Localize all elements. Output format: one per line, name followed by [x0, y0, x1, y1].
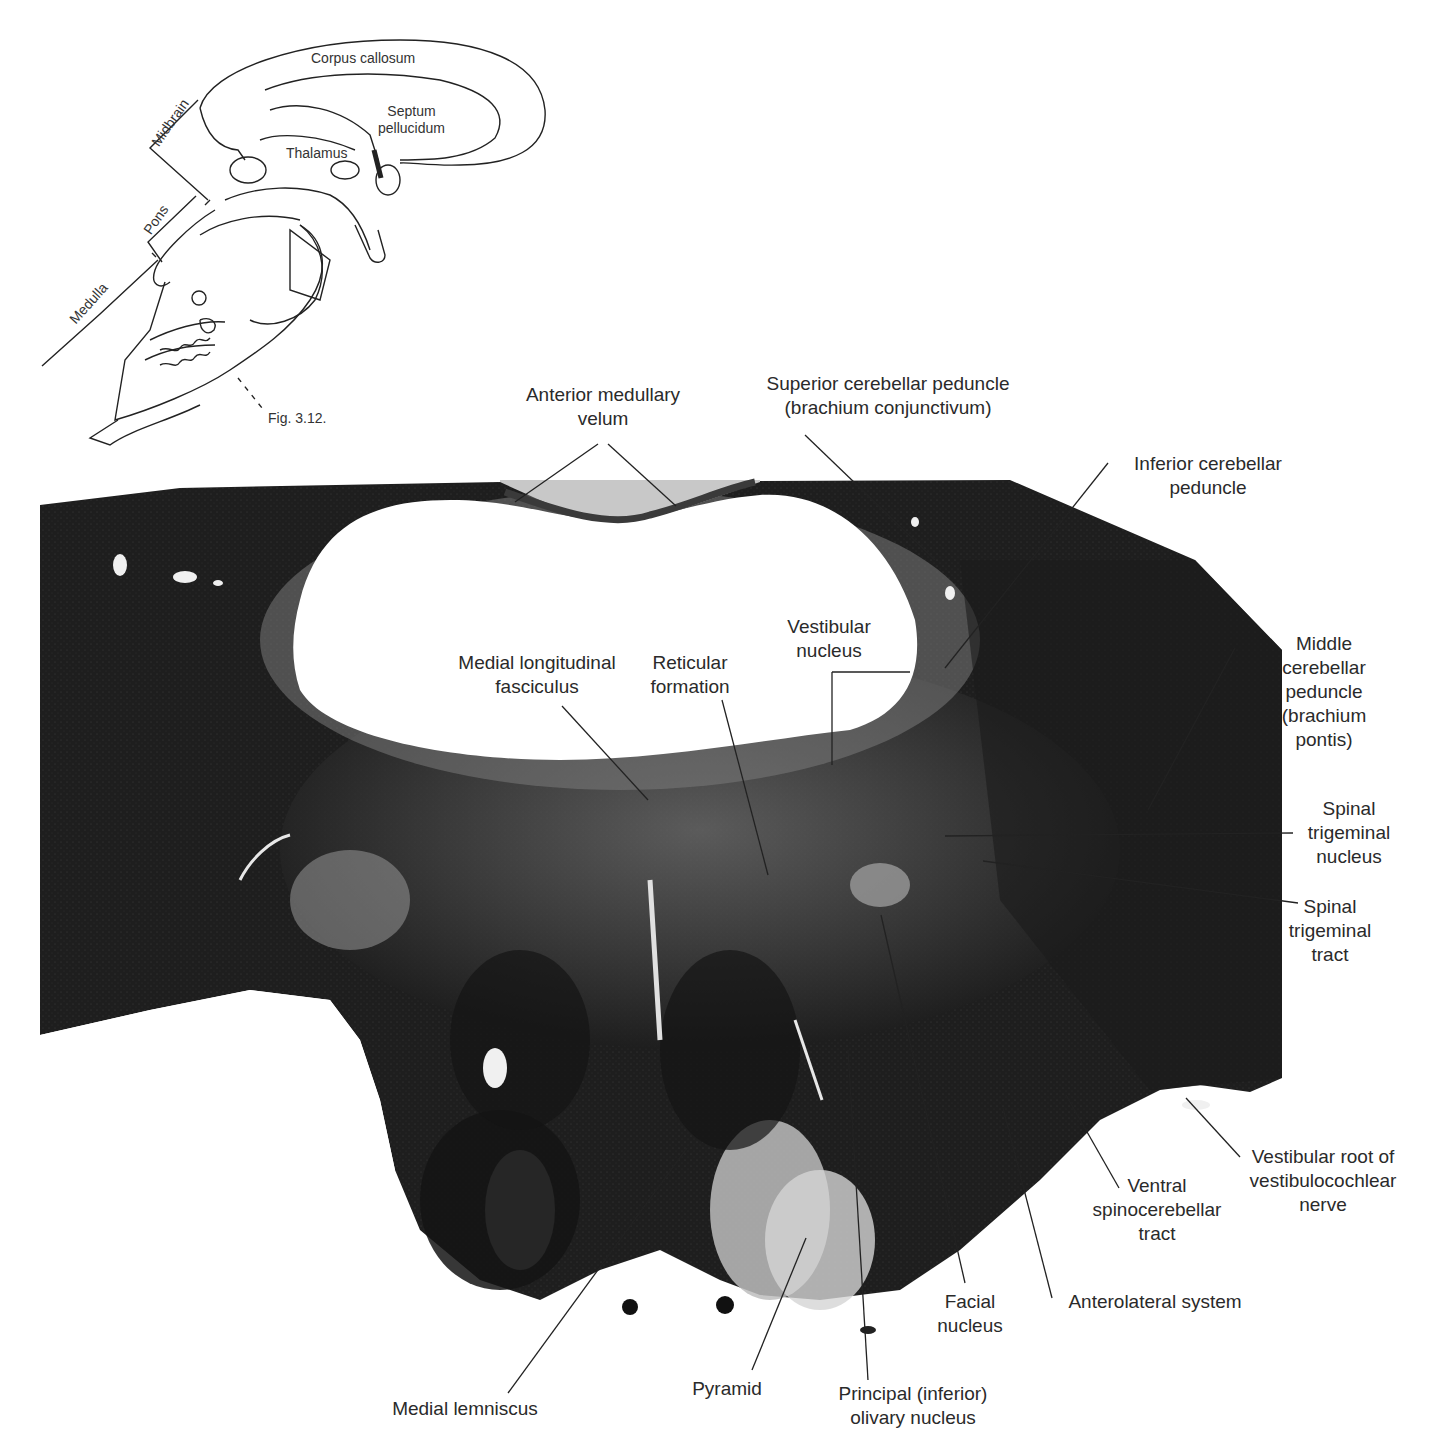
inset-label-fig-ref: Fig. 3.12.: [268, 410, 326, 427]
label-vestibular-root: Vestibular root of vestibulocochlear ner…: [1250, 1145, 1397, 1217]
label-anterolateral-system: Anterolateral system: [1068, 1290, 1241, 1314]
label-inferior-cerebellar-peduncle: Inferior cerebellar peduncle: [1134, 452, 1282, 500]
label-vestibular-nucleus: Vestibular nucleus: [787, 615, 870, 663]
label-medial-longitudinal-fasciculus: Medial longitudinal fasciculus: [458, 651, 615, 699]
inset-label-corpus-callosum: Corpus callosum: [311, 50, 415, 67]
label-spinal-trigeminal-tract: Spinal trigeminal tract: [1289, 895, 1371, 967]
label-spinal-trigeminal-nucleus: Spinal trigeminal nucleus: [1308, 797, 1390, 869]
figure-stage: Corpus callosum Septum pellucidum Thalam…: [0, 0, 1445, 1453]
inset-label-thalamus: Thalamus: [286, 145, 347, 162]
label-middle-cerebellar-peduncle: Middle cerebellar peduncle (brachium pon…: [1264, 632, 1385, 752]
label-facial-nucleus: Facial nucleus: [937, 1290, 1003, 1338]
label-reticular-formation: Reticular formation: [650, 651, 729, 699]
label-anterior-medullary-velum: Anterior medullary velum: [526, 383, 680, 431]
label-pyramid: Pyramid: [692, 1377, 762, 1401]
label-ventral-spinocerebellar-tract: Ventral spinocerebellar tract: [1093, 1174, 1222, 1246]
sagittal-inset-diagram: [0, 0, 560, 460]
label-medial-lemniscus: Medial lemniscus: [392, 1397, 538, 1421]
inset-label-septum-pellucidum: Septum pellucidum: [378, 103, 445, 137]
label-superior-cerebellar-peduncle: Superior cerebellar peduncle (brachium c…: [767, 372, 1010, 420]
label-principal-olivary-nucleus: Principal (inferior) olivary nucleus: [839, 1382, 988, 1430]
